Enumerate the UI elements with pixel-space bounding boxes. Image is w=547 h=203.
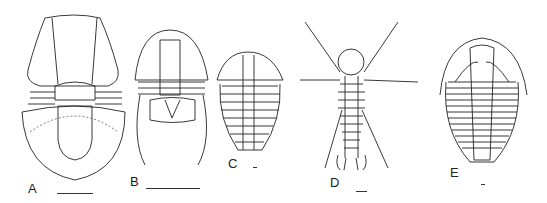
- specimen-e: [440, 38, 527, 162]
- panel-label-b: B: [130, 175, 139, 188]
- specimen-c: [217, 52, 283, 150]
- trilobite-drawings: [0, 0, 547, 203]
- scale-bar-a: [57, 193, 93, 194]
- scale-bar-c: [253, 167, 257, 168]
- scale-bar-d: [356, 191, 367, 192]
- panel-label-c: C: [228, 157, 237, 170]
- panel-label-e: E: [450, 166, 459, 179]
- panel-label-d: D: [330, 176, 339, 189]
- scale-bar-e: [481, 184, 485, 185]
- specimen-d: [300, 22, 418, 170]
- panel-label-a: A: [28, 182, 37, 195]
- specimen-a: [22, 15, 125, 180]
- specimen-b: [135, 30, 208, 165]
- scale-bar-b: [146, 188, 200, 189]
